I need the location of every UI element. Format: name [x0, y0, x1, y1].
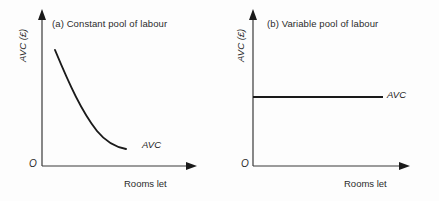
x-axis-label-a: Rooms let	[124, 178, 167, 189]
panel-title-b: (b) Variable pool of labour	[267, 18, 378, 29]
y-axis-label-a: AVC (£)	[17, 29, 28, 62]
figure-container: (a) Constant pool of labour AVC (£) Room…	[0, 0, 439, 201]
y-axis-arrowhead-b	[249, 9, 257, 20]
x-axis-arrowhead-b	[399, 162, 410, 170]
chart-b-svg	[219, 0, 438, 201]
x-axis-label-b: Rooms let	[344, 178, 387, 189]
y-axis-arrowhead-a	[38, 9, 46, 20]
origin-label-b: O	[241, 158, 249, 169]
avc-curve-a	[55, 50, 126, 149]
chart-panel-b: (b) Variable pool of labour AVC (£) Room…	[219, 0, 438, 201]
panel-title-a: (a) Constant pool of labour	[52, 18, 167, 29]
chart-a-svg	[0, 0, 219, 201]
avc-series-label-a: AVC	[142, 139, 161, 150]
chart-panel-a: (a) Constant pool of labour AVC (£) Room…	[0, 0, 219, 201]
origin-label-a: O	[29, 158, 37, 169]
x-axis-arrowhead-a	[186, 162, 197, 170]
avc-series-label-b: AVC	[387, 89, 406, 100]
y-axis-label-b: AVC (£)	[235, 29, 246, 62]
